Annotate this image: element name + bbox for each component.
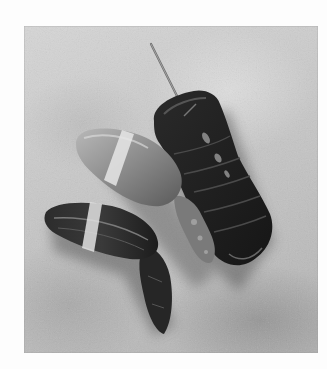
photo-illustration xyxy=(24,26,318,353)
lobster-photo xyxy=(24,26,318,353)
page xyxy=(0,0,327,369)
